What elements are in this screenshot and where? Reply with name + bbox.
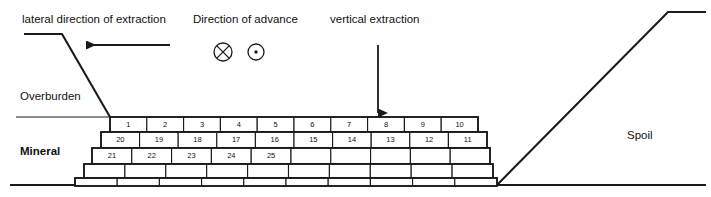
bench-block: [140, 132, 179, 148]
bench-block: [217, 132, 256, 148]
bench-block: [251, 148, 291, 164]
bench-block: [371, 148, 411, 164]
bench-block: [410, 148, 450, 164]
bench-block: [328, 178, 370, 186]
bench-block: [291, 148, 331, 164]
circle-x-icon: [214, 43, 232, 61]
bench-block: [370, 178, 412, 186]
bench-block: [411, 164, 452, 178]
bench-block: [410, 132, 449, 148]
bench-block: [117, 178, 159, 186]
bench-block: [289, 164, 330, 178]
label-overburden: Overburden: [20, 91, 81, 103]
bench-block: [92, 148, 132, 164]
bench-block: [368, 117, 405, 132]
bench-block: [371, 132, 410, 148]
bench-block: [147, 117, 184, 132]
bench-block: [257, 117, 294, 132]
bench-block: [159, 178, 201, 186]
highwall-profile: [24, 34, 110, 117]
diagram-canvas: [0, 0, 711, 197]
bench-block: [255, 132, 294, 148]
label-mineral: Mineral: [20, 146, 60, 158]
bench-block: [448, 132, 487, 148]
bench-block: [248, 164, 289, 178]
bench-block: [202, 178, 244, 186]
bench-block: [211, 148, 251, 164]
bench-block: [441, 117, 478, 132]
label-spoil: Spoil: [627, 130, 653, 142]
bench-block: [294, 117, 331, 132]
spoil-slope-line: [497, 12, 706, 185]
bench-block: [220, 117, 257, 132]
bench-block: [331, 148, 371, 164]
circle-dot-icon: [248, 44, 264, 60]
bench-block: [404, 117, 441, 132]
annotation-arrows-group: [86, 43, 378, 113]
bench-block: [329, 164, 370, 178]
extraction-sequence-diagram: lateral direction of extraction Directio…: [0, 0, 711, 197]
bench-block: [166, 164, 207, 178]
bench-block: [452, 164, 493, 178]
bench-block: [184, 117, 221, 132]
bench-block: [333, 132, 372, 148]
bench-block: [331, 117, 368, 132]
bench-block: [172, 148, 212, 164]
bench-blocks-group: [75, 117, 497, 186]
bench-block: [450, 148, 490, 164]
label-direction-of-advance: Direction of advance: [193, 14, 298, 26]
spoil-profile: [497, 12, 706, 185]
bench-block: [132, 148, 172, 164]
bench-block: [294, 132, 333, 148]
bench-block: [178, 132, 217, 148]
bench-block: [125, 164, 166, 178]
bench-block: [110, 117, 147, 132]
bench-block: [84, 164, 125, 178]
bench-block: [207, 164, 248, 178]
bench-block: [75, 178, 117, 186]
bench-block: [101, 132, 140, 148]
bench-block: [244, 178, 286, 186]
label-vertical-extraction: vertical extraction: [330, 14, 419, 26]
bench-block: [286, 178, 328, 186]
bench-block: [413, 178, 455, 186]
highwall-slope-line: [24, 34, 110, 117]
bench-block: [370, 164, 411, 178]
bench-block: [455, 178, 497, 186]
label-lateral-direction: lateral direction of extraction: [22, 14, 166, 26]
